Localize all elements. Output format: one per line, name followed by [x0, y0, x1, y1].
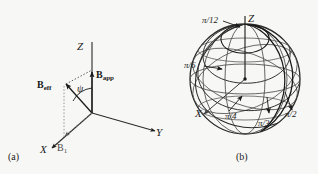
trajectory-pointer-pi-over-3: [267, 97, 269, 113]
trajectory-label-pi-over-6: π/6: [184, 61, 196, 70]
sphere-axis-label-z: Z: [248, 13, 254, 24]
panel-b: Z X π/12 π/6 π/4 π/3 π/2 (b): [172, 0, 318, 174]
panel-a: Z X Y Bapp Beff B1 ψ (a): [0, 0, 172, 174]
vector-label-b-eff: Beff: [37, 80, 51, 90]
construction-dotted-lines: [64, 70, 92, 137]
b-eff-main: B: [37, 79, 44, 90]
b-app-main: B: [96, 69, 103, 80]
sphere-axis-label-x: X: [195, 108, 202, 119]
axis-label-y: Y: [156, 127, 162, 138]
sphere-axis-x: [204, 79, 245, 114]
trajectory-pointer-pi-over-4: [229, 96, 242, 111]
trajectory-label-pi-over-3: π/3: [258, 119, 270, 128]
axis-label-x: X: [40, 144, 47, 155]
field-component-label-b1: B1: [57, 143, 67, 153]
panel-b-caption: (b): [236, 152, 248, 162]
figure-container: Z X Y Bapp Beff B1 ψ (a): [0, 0, 318, 174]
trajectory-label-pi-over-2: π/2: [285, 110, 297, 119]
b-eff-sub: eff: [44, 84, 52, 92]
panel-a-caption: (a): [8, 152, 19, 162]
axis-y: [92, 113, 155, 131]
angle-label-psi: ψ: [77, 84, 83, 94]
vector-label-b-app: Bapp: [96, 70, 114, 80]
trajectory-label-pi-over-12: π/12: [202, 16, 218, 25]
sphere-origin-dot: [243, 77, 246, 80]
axis-label-z: Z: [77, 41, 83, 52]
panel-a-vector-diagram: [0, 0, 172, 174]
trajectory-label-pi-over-4: π/4: [225, 112, 237, 121]
b1-main: B: [57, 142, 64, 153]
b1-sub: 1: [64, 147, 68, 155]
panel-b-bloch-sphere: [172, 0, 318, 174]
b-app-sub: app: [103, 74, 114, 82]
